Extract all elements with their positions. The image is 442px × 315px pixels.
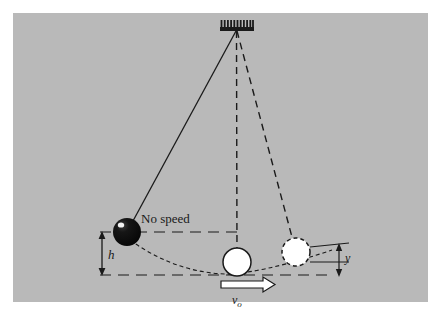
dimension-h <box>99 231 106 276</box>
velocity-arrow-icon <box>221 277 275 292</box>
bob-highlight <box>118 222 124 227</box>
swing-arc-dashed <box>130 240 237 274</box>
string-right-dashed <box>237 31 296 252</box>
bob-lowest <box>223 248 251 276</box>
bob-released <box>113 218 141 246</box>
ceiling-support-icon <box>220 20 254 31</box>
dimension-y <box>310 243 349 277</box>
velocity-label: vo <box>232 293 242 309</box>
drop-label: y <box>344 251 351 265</box>
string-center-dashed <box>237 31 238 262</box>
height-label: h <box>108 247 115 262</box>
string-left-solid <box>127 31 236 232</box>
no-speed-label: No speed <box>141 211 190 226</box>
bob-right <box>282 238 310 266</box>
figure-root: h y vo No speed <box>0 0 442 315</box>
pendulum-diagram: h y vo No speed <box>0 0 442 315</box>
